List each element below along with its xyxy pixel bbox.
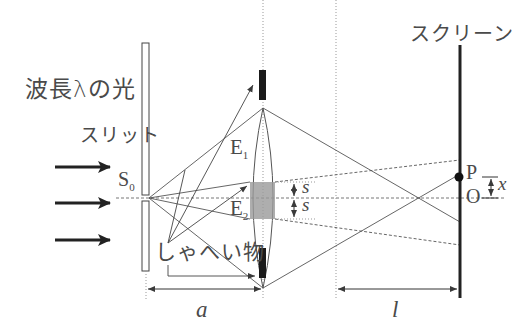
- obstacle-top: [259, 70, 266, 100]
- e2-subscript: 2: [243, 210, 249, 222]
- e1-subscript: 1: [243, 149, 249, 161]
- source-letter: S: [118, 168, 129, 190]
- e1-letter: E: [230, 135, 243, 159]
- source-label: S0: [118, 168, 135, 193]
- point-o-label: O: [466, 185, 480, 208]
- obstacle-label: しゃへい物: [155, 235, 265, 265]
- light-label: 波長λの光: [25, 70, 136, 104]
- e2-label: E2: [230, 196, 248, 222]
- source-subscript: 0: [129, 181, 135, 193]
- e1-label: E1: [230, 135, 248, 161]
- s-lower-label: s: [302, 194, 309, 216]
- incoming-light-arrows: [55, 167, 110, 240]
- l-label: l: [392, 297, 398, 323]
- x-marker: [482, 177, 498, 198]
- x-label: x: [498, 173, 506, 195]
- optics-diagram: [0, 0, 532, 332]
- a-label: a: [196, 297, 208, 323]
- point-p-dot: [455, 173, 464, 182]
- slit-plate: [142, 43, 149, 271]
- point-p-label: P: [466, 161, 477, 184]
- slit-label: スリット: [80, 120, 160, 147]
- shaded-aperture: [250, 182, 275, 219]
- e2-letter: E: [230, 196, 243, 220]
- screen-label: スクリーン: [410, 18, 514, 47]
